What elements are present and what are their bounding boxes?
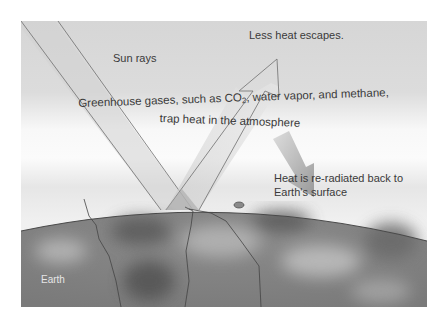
reradiated-label-line2: Earth's surface	[274, 185, 347, 199]
island	[234, 202, 244, 208]
earth-label: Earth	[41, 273, 65, 287]
sun-rays-label: Sun rays	[113, 51, 156, 65]
greenhouse-diagram: Sun rays Less heat escapes. Greenhouse g…	[21, 21, 427, 307]
less-heat-escapes-label: Less heat escapes.	[249, 28, 344, 42]
diagram-artwork	[21, 21, 427, 307]
reradiated-label-line1: Heat is re-radiated back to	[274, 171, 403, 185]
